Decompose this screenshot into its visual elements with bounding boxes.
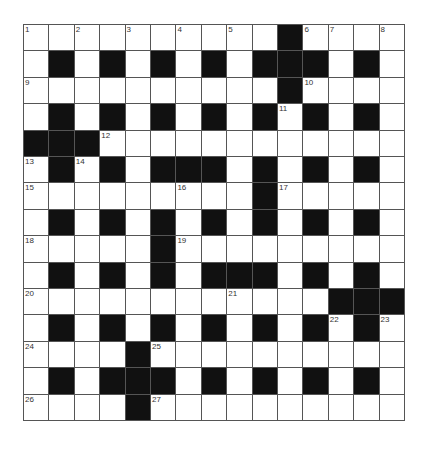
crossword-cell[interactable] [303, 289, 327, 314]
crossword-cell[interactable] [380, 236, 404, 261]
crossword-cell[interactable] [329, 157, 353, 182]
crossword-cell[interactable]: 2 [75, 25, 99, 50]
crossword-cell[interactable] [24, 104, 48, 129]
crossword-cell[interactable] [227, 315, 251, 340]
crossword-cell[interactable] [303, 342, 327, 367]
crossword-cell[interactable] [253, 395, 277, 420]
crossword-cell[interactable] [354, 183, 378, 208]
crossword-cell[interactable] [227, 131, 251, 156]
crossword-cell[interactable] [227, 51, 251, 76]
crossword-cell[interactable] [253, 236, 277, 261]
crossword-cell[interactable]: 19 [176, 236, 200, 261]
crossword-cell[interactable] [278, 210, 302, 235]
crossword-cell[interactable] [329, 342, 353, 367]
crossword-cell[interactable] [329, 236, 353, 261]
crossword-cell[interactable] [24, 315, 48, 340]
crossword-cell[interactable] [75, 289, 99, 314]
crossword-cell[interactable] [202, 395, 226, 420]
crossword-cell[interactable] [253, 131, 277, 156]
crossword-cell[interactable] [380, 51, 404, 76]
crossword-cell[interactable] [329, 210, 353, 235]
crossword-cell[interactable] [24, 263, 48, 288]
crossword-cell[interactable] [75, 183, 99, 208]
crossword-cell[interactable] [354, 395, 378, 420]
crossword-cell[interactable]: 16 [176, 183, 200, 208]
crossword-cell[interactable]: 8 [380, 25, 404, 50]
crossword-cell[interactable]: 1 [24, 25, 48, 50]
crossword-cell[interactable] [126, 236, 150, 261]
crossword-cell[interactable] [380, 395, 404, 420]
crossword-cell[interactable] [75, 315, 99, 340]
crossword-cell[interactable] [202, 25, 226, 50]
crossword-cell[interactable]: 25 [151, 342, 175, 367]
crossword-cell[interactable] [303, 183, 327, 208]
crossword-cell[interactable] [329, 78, 353, 103]
crossword-cell[interactable]: 3 [126, 25, 150, 50]
crossword-cell[interactable] [49, 395, 73, 420]
crossword-cell[interactable]: 26 [24, 395, 48, 420]
crossword-cell[interactable] [380, 210, 404, 235]
crossword-cell[interactable]: 14 [75, 157, 99, 182]
crossword-cell[interactable] [278, 368, 302, 393]
crossword-cell[interactable]: 17 [278, 183, 302, 208]
crossword-cell[interactable] [202, 183, 226, 208]
crossword-cell[interactable] [278, 289, 302, 314]
crossword-cell[interactable]: 18 [24, 236, 48, 261]
crossword-cell[interactable]: 4 [176, 25, 200, 50]
crossword-cell[interactable] [126, 210, 150, 235]
crossword-cell[interactable] [380, 78, 404, 103]
crossword-cell[interactable] [151, 183, 175, 208]
crossword-cell[interactable] [126, 51, 150, 76]
crossword-cell[interactable] [176, 342, 200, 367]
crossword-cell[interactable] [176, 289, 200, 314]
crossword-cell[interactable] [126, 78, 150, 103]
crossword-cell[interactable] [253, 342, 277, 367]
crossword-cell[interactable]: 20 [24, 289, 48, 314]
crossword-cell[interactable] [24, 210, 48, 235]
crossword-cell[interactable] [303, 236, 327, 261]
crossword-cell[interactable]: 11 [278, 104, 302, 129]
crossword-cell[interactable]: 12 [100, 131, 124, 156]
crossword-cell[interactable] [126, 104, 150, 129]
crossword-cell[interactable] [227, 342, 251, 367]
crossword-cell[interactable]: 7 [329, 25, 353, 50]
crossword-cell[interactable] [100, 25, 124, 50]
crossword-cell[interactable] [151, 131, 175, 156]
crossword-cell[interactable] [278, 395, 302, 420]
crossword-cell[interactable] [303, 395, 327, 420]
crossword-cell[interactable] [100, 342, 124, 367]
crossword-cell[interactable] [329, 51, 353, 76]
crossword-cell[interactable] [151, 289, 175, 314]
crossword-cell[interactable] [253, 25, 277, 50]
crossword-cell[interactable]: 13 [24, 157, 48, 182]
crossword-cell[interactable] [75, 210, 99, 235]
crossword-cell[interactable] [227, 78, 251, 103]
crossword-cell[interactable] [24, 368, 48, 393]
crossword-cell[interactable] [49, 78, 73, 103]
crossword-cell[interactable] [49, 25, 73, 50]
crossword-cell[interactable] [278, 131, 302, 156]
crossword-cell[interactable] [49, 183, 73, 208]
crossword-cell[interactable] [329, 263, 353, 288]
crossword-cell[interactable] [253, 78, 277, 103]
crossword-cell[interactable] [24, 51, 48, 76]
crossword-cell[interactable] [380, 342, 404, 367]
crossword-cell[interactable]: 23 [380, 315, 404, 340]
crossword-cell[interactable] [126, 131, 150, 156]
crossword-cell[interactable] [100, 183, 124, 208]
crossword-cell[interactable] [380, 263, 404, 288]
crossword-cell[interactable] [126, 289, 150, 314]
crossword-cell[interactable] [202, 131, 226, 156]
crossword-cell[interactable] [151, 25, 175, 50]
crossword-cell[interactable] [75, 263, 99, 288]
crossword-cell[interactable] [126, 183, 150, 208]
crossword-cell[interactable] [75, 342, 99, 367]
crossword-cell[interactable] [278, 263, 302, 288]
crossword-cell[interactable] [329, 395, 353, 420]
crossword-cell[interactable] [227, 104, 251, 129]
crossword-cell[interactable] [354, 342, 378, 367]
crossword-cell[interactable] [176, 395, 200, 420]
crossword-cell[interactable] [100, 78, 124, 103]
crossword-cell[interactable] [49, 342, 73, 367]
crossword-cell[interactable] [202, 236, 226, 261]
